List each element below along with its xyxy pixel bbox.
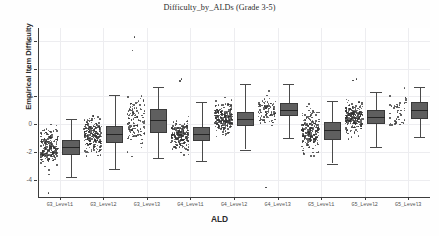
x-tick-mark [408, 197, 409, 200]
y-axis-title: Empirical Item Difficulty [24, 0, 33, 147]
x-axis-title: ALD [0, 214, 439, 224]
y-tick-label: -4 [18, 177, 32, 183]
y-axis-ticks: 6420-2-4 [0, 0, 439, 236]
y-tick-mark [34, 96, 37, 97]
x-tick-mark [234, 197, 235, 200]
x-tick-label: G5_Level3 [380, 202, 436, 208]
chart-figure: Difficulty_by_ALDs (Grade 3-5) 6420-2-4 … [0, 0, 439, 236]
y-tick-mark [34, 152, 37, 153]
y-tick-label: -2 [18, 149, 32, 155]
x-tick-mark [321, 197, 322, 200]
x-tick-mark [60, 197, 61, 200]
y-tick-mark [34, 41, 37, 42]
y-tick-mark [34, 180, 37, 181]
x-tick-mark [147, 197, 148, 200]
x-tick-mark [190, 197, 191, 200]
x-tick-mark [103, 197, 104, 200]
y-tick-mark [34, 69, 37, 70]
x-tick-mark [278, 197, 279, 200]
y-tick-mark [34, 124, 37, 125]
x-tick-mark [365, 197, 366, 200]
